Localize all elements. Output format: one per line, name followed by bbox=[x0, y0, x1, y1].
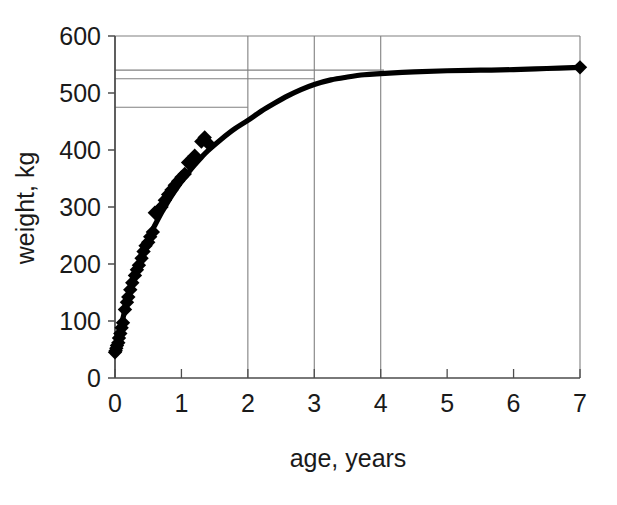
x-tick-label-1: 1 bbox=[174, 389, 188, 417]
x-tick-label-3: 3 bbox=[307, 389, 321, 417]
x-tick-label-6: 6 bbox=[507, 389, 521, 417]
chart-figure: 01234567 0100200300400500600 age, years … bbox=[0, 0, 617, 505]
x-tick-label-7: 7 bbox=[573, 389, 587, 417]
y-tick-label-400: 400 bbox=[59, 136, 101, 164]
growth-curve-chart: 01234567 0100200300400500600 age, years … bbox=[0, 0, 617, 505]
x-tick-label-4: 4 bbox=[374, 389, 388, 417]
x-tick-label-5: 5 bbox=[440, 389, 454, 417]
y-tick-label-500: 500 bbox=[59, 79, 101, 107]
x-tick-label-0: 0 bbox=[108, 389, 122, 417]
y-tick-label-100: 100 bbox=[59, 307, 101, 335]
y-tick-label-0: 0 bbox=[87, 364, 101, 392]
y-tick-label-200: 200 bbox=[59, 250, 101, 278]
y-tick-label-300: 300 bbox=[59, 193, 101, 221]
x-axis-title: age, years bbox=[290, 444, 407, 472]
y-axis-title: weight, kg bbox=[11, 152, 39, 266]
y-tick-label-600: 600 bbox=[59, 22, 101, 50]
x-tick-label-2: 2 bbox=[241, 389, 255, 417]
